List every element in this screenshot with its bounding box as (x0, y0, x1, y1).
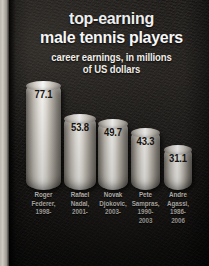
bar-value-label: 43.3 (132, 136, 160, 147)
category-label-line: 2003 (132, 217, 160, 226)
chart-subtitle: career earnings, in millions of US dolla… (14, 52, 209, 76)
bar-4: 43.3 (131, 129, 160, 190)
category-label-line: Agassi, (165, 200, 192, 209)
category-axis-labels: RogerFederer,1998-RafaelNadal,2001-Novak… (14, 191, 209, 249)
bar-value-label: 53.8 (65, 122, 95, 133)
category-label-line: Novak (99, 191, 128, 200)
category-label-line: Federer, (27, 200, 60, 209)
category-label-2: RafaelNadal,2001- (65, 191, 95, 217)
category-label-line: 2006 (165, 217, 192, 226)
bar-chart-plot-area: 77.153.849.743.331.1 (14, 78, 209, 190)
infographic-page: top-earning male tennis players career e… (0, 0, 209, 266)
bar-value-label: 77.1 (27, 89, 60, 100)
subtitle-line-2: of US dollars (19, 64, 204, 76)
category-label-line: 1998- (27, 208, 60, 217)
bar-cylinder: 53.8 (64, 115, 96, 190)
category-label-1: RogerFederer,1998- (27, 191, 60, 217)
category-label-3: NovakDjokovic,2003- (99, 191, 128, 217)
page-edge-strip (0, 0, 9, 266)
category-label-line: Pete (132, 191, 160, 200)
chart-content: top-earning male tennis players career e… (14, 0, 209, 266)
subtitle-line-1: career earnings, in millions (19, 52, 204, 64)
bar-3: 49.7 (98, 120, 128, 190)
category-label-line: Sampras, (132, 200, 160, 209)
category-label-line: Rafael (65, 191, 95, 200)
bar-value-label: 49.7 (99, 127, 128, 138)
category-label-line: Andre (165, 191, 192, 200)
bar-value-label: 31.1 (165, 153, 192, 164)
bar-cylinder: 49.7 (98, 120, 128, 190)
bar-cylinder: 31.1 (164, 146, 192, 190)
title-line-2: male tennis players (20, 28, 203, 47)
category-label-line: 2003- (99, 208, 128, 217)
bar-cylinder: 77.1 (26, 82, 61, 190)
category-label-line: 1986- (165, 208, 192, 217)
title-line-1: top-earning (20, 9, 203, 28)
page-edge-shadow (9, 0, 16, 266)
category-label-line: Djokovic, (99, 200, 128, 209)
category-label-line: Nadal, (65, 200, 95, 209)
bar-5: 31.1 (164, 146, 192, 190)
category-label-4: PeteSampras,1990-2003 (132, 191, 160, 225)
category-label-line: Roger (27, 191, 60, 200)
bar-2: 53.8 (64, 115, 96, 190)
category-label-5: AndreAgassi,1986-2006 (165, 191, 192, 225)
bar-1: 77.1 (26, 82, 61, 190)
bar-cylinder: 43.3 (131, 129, 160, 190)
category-label-line: 1990- (132, 208, 160, 217)
category-label-line: 2001- (65, 208, 95, 217)
chart-title: top-earning male tennis players (14, 9, 209, 47)
